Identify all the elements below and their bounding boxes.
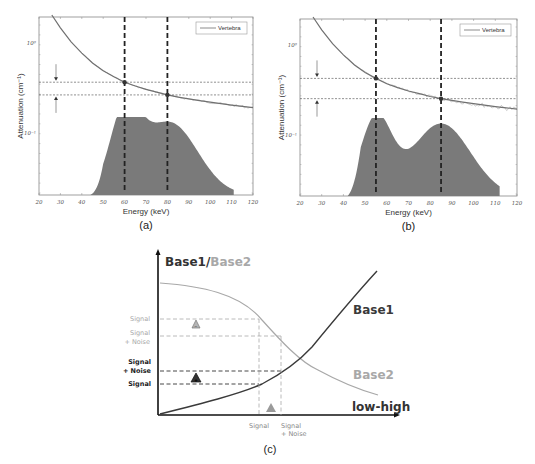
chart-panel-c: Base1/Base2−+SignalSignal+ NoiseSignal+ … bbox=[123, 249, 410, 455]
panel-caption: (c) bbox=[264, 443, 277, 455]
x-axis-label: Energy (keV) bbox=[123, 207, 170, 216]
triangle-shift-icon bbox=[266, 403, 276, 412]
chart-c-title: Base1/Base2 bbox=[165, 255, 251, 269]
x-tick-label: 50 bbox=[100, 199, 107, 205]
x-tick-label: 60 bbox=[383, 200, 390, 206]
label-base1-signal: Signal bbox=[128, 380, 151, 388]
x-tick-label: 70 bbox=[143, 199, 150, 205]
plus-sign: + bbox=[194, 377, 198, 383]
label-x-signal2: Signal bbox=[281, 422, 301, 430]
y-tick-label-bottom: 10⁻¹ bbox=[285, 132, 297, 138]
spectrum-area bbox=[348, 118, 500, 196]
x-tick-label: 30 bbox=[318, 200, 325, 206]
intersection-point bbox=[439, 96, 443, 100]
arrow-down-icon bbox=[315, 73, 319, 77]
x-tick-label: 120 bbox=[512, 200, 523, 206]
x-tick-label: 110 bbox=[226, 199, 237, 205]
x-tick-label: 80 bbox=[427, 200, 434, 206]
y-axis-label: Attenuation (cm⁻¹) bbox=[277, 74, 286, 140]
x-tick-label: 120 bbox=[248, 199, 259, 205]
label-base2-signal2: Signal bbox=[130, 329, 150, 337]
x-tick-label: 40 bbox=[339, 200, 347, 206]
arrow-down-icon bbox=[54, 77, 58, 81]
legend: Vertebra bbox=[196, 22, 247, 34]
x-tick-label: 30 bbox=[57, 199, 64, 205]
figure: 203040506070809010011012010⁰10⁻¹Energy (… bbox=[0, 0, 535, 464]
label-base1: Base1 bbox=[353, 303, 394, 317]
title-base2: Base2 bbox=[210, 255, 251, 269]
y-tick-label-top: 10⁰ bbox=[288, 42, 298, 48]
x-tick-label: 40 bbox=[77, 199, 85, 205]
x-tick-label: 20 bbox=[296, 200, 304, 206]
base2-curve bbox=[160, 283, 378, 395]
x-tick-label: 80 bbox=[164, 199, 171, 205]
legend-label: Vertebra bbox=[482, 27, 505, 33]
x-tick-label: 90 bbox=[185, 199, 192, 205]
x-tick-label: 100 bbox=[205, 199, 216, 205]
legend: Vertebra bbox=[460, 24, 511, 36]
chart-panel-b: 203040506070809010011012010⁰10⁻¹Energy (… bbox=[277, 17, 523, 232]
x-tick-label: 90 bbox=[448, 200, 455, 206]
x-tick-label: 70 bbox=[405, 200, 412, 206]
y-axis-arrow-icon bbox=[156, 249, 161, 255]
y-axis-label: Attenuation (cm⁻¹) bbox=[16, 73, 25, 139]
x-tick-label: 20 bbox=[35, 199, 43, 205]
label-base2-signal: Signal bbox=[130, 315, 150, 323]
label-x-signal: Signal bbox=[249, 422, 269, 430]
base1-curve bbox=[160, 271, 377, 414]
intersection-point bbox=[374, 76, 378, 80]
label-base2: Base2 bbox=[353, 368, 394, 382]
x-axis-label-c: low-high bbox=[352, 400, 410, 414]
y-tick-label-top: 10⁰ bbox=[27, 40, 37, 46]
arrow-up-icon bbox=[54, 96, 58, 100]
label-base1-signal-top: Signal bbox=[128, 358, 151, 366]
noisy-measurement-line bbox=[343, 55, 517, 110]
x-tick-label: 50 bbox=[362, 200, 369, 206]
intersection-point bbox=[165, 93, 169, 97]
legend-label: Vertebra bbox=[218, 25, 241, 31]
label-base1-plus-noise: + Noise bbox=[123, 367, 152, 375]
title-base1: Base1 bbox=[165, 255, 206, 269]
spectrum-area bbox=[90, 117, 233, 195]
x-tick-label: 100 bbox=[468, 200, 479, 206]
y-tick-label-bottom: 10⁻¹ bbox=[24, 130, 36, 136]
arrow-up-icon bbox=[315, 100, 319, 104]
panel-caption: (b) bbox=[402, 220, 415, 232]
label-base2-plus-noise: + Noise bbox=[124, 338, 150, 346]
label-x-plus-noise: + Noise bbox=[281, 430, 307, 438]
x-axis-label: Energy (keV) bbox=[385, 208, 432, 217]
x-tick-label: 60 bbox=[121, 199, 128, 205]
minus-sign: − bbox=[195, 323, 198, 329]
x-tick-label: 110 bbox=[490, 200, 501, 206]
panel-caption: (a) bbox=[139, 219, 152, 231]
chart-panel-a: 203040506070809010011012010⁰10⁻¹Energy (… bbox=[16, 15, 259, 231]
intersection-point bbox=[122, 80, 126, 84]
